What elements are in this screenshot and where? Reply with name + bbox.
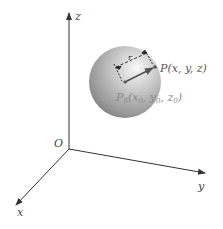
sphere-diagram: O z y x r P(x, y, z) P0(x0, y0, z0) [0, 0, 223, 229]
z-axis-label: z [74, 10, 81, 23]
x-axis-label: x [17, 206, 24, 219]
surface-point [153, 65, 157, 69]
point-label: P(x, y, z) [159, 62, 207, 75]
origin-label: O [54, 137, 63, 150]
y-axis-label: y [197, 180, 205, 193]
center-point [123, 80, 126, 83]
x-axis [16, 149, 69, 205]
y-axis [69, 149, 205, 173]
